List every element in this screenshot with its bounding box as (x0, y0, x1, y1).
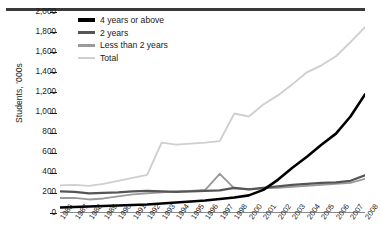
x-axis-tick-label: 2006 (334, 202, 351, 221)
legend-item: 2 years (78, 27, 168, 40)
x-axis-tick-label: 1988 (87, 202, 104, 221)
x-axis-tick-label: 2005 (319, 202, 336, 221)
legend-item: Less than 2 years (78, 39, 168, 52)
legend-color-swatch (78, 31, 95, 34)
x-axis-tick-label: 1998 (232, 202, 249, 221)
x-axis-tick-label: 1987 (73, 202, 90, 221)
legend-color-swatch (78, 44, 95, 47)
chart-legend: 4 years or above2 yearsLess than 2 years… (78, 14, 168, 64)
legend-item: 4 years or above (78, 14, 168, 27)
x-axis-tick-label: 2001 (261, 202, 278, 221)
x-axis-tick-label: 2002 (276, 202, 293, 221)
x-axis-tick-label: 2007 (348, 202, 365, 221)
x-axis-tick-label: 1992 (145, 202, 162, 221)
x-axis-tick-label: 1989 (102, 202, 119, 221)
legend-color-swatch (78, 57, 95, 60)
x-axis-tick-label: 1996 (203, 202, 220, 221)
legend-item-label: 4 years or above (100, 15, 164, 25)
x-axis-tick-label: 1995 (189, 202, 206, 221)
legend-item-label: 2 years (100, 28, 128, 38)
legend-item-label: Total (100, 53, 118, 63)
x-axis-tick-label: 2004 (305, 202, 322, 221)
x-axis-tick-label: 1997 (218, 202, 235, 221)
legend-item: Total (78, 52, 168, 65)
x-axis-tick-label: 2000 (247, 202, 264, 221)
x-axis-tick-label: 1994 (174, 202, 191, 221)
x-axis-tick-label: 1986 (58, 202, 75, 221)
x-axis-tick-label: 1993 (160, 202, 177, 221)
x-axis-tick-label: 1991 (131, 202, 148, 221)
legend-color-swatch (78, 18, 95, 22)
x-axis-tick-label: 1990 (116, 202, 133, 221)
x-axis-tick-label: 2008 (363, 202, 380, 221)
x-axis-tick-label: 2003 (290, 202, 307, 221)
legend-item-label: Less than 2 years (100, 40, 168, 50)
